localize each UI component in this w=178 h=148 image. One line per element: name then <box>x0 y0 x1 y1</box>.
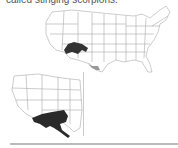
divider-vertical <box>83 72 84 136</box>
southwest-inset-map <box>8 70 84 140</box>
us-map-graphic <box>42 4 178 76</box>
range-secondary <box>88 64 100 70</box>
inset-map-graphic <box>8 70 84 140</box>
us-map <box>42 4 178 76</box>
divider-horizontal <box>10 143 178 145</box>
